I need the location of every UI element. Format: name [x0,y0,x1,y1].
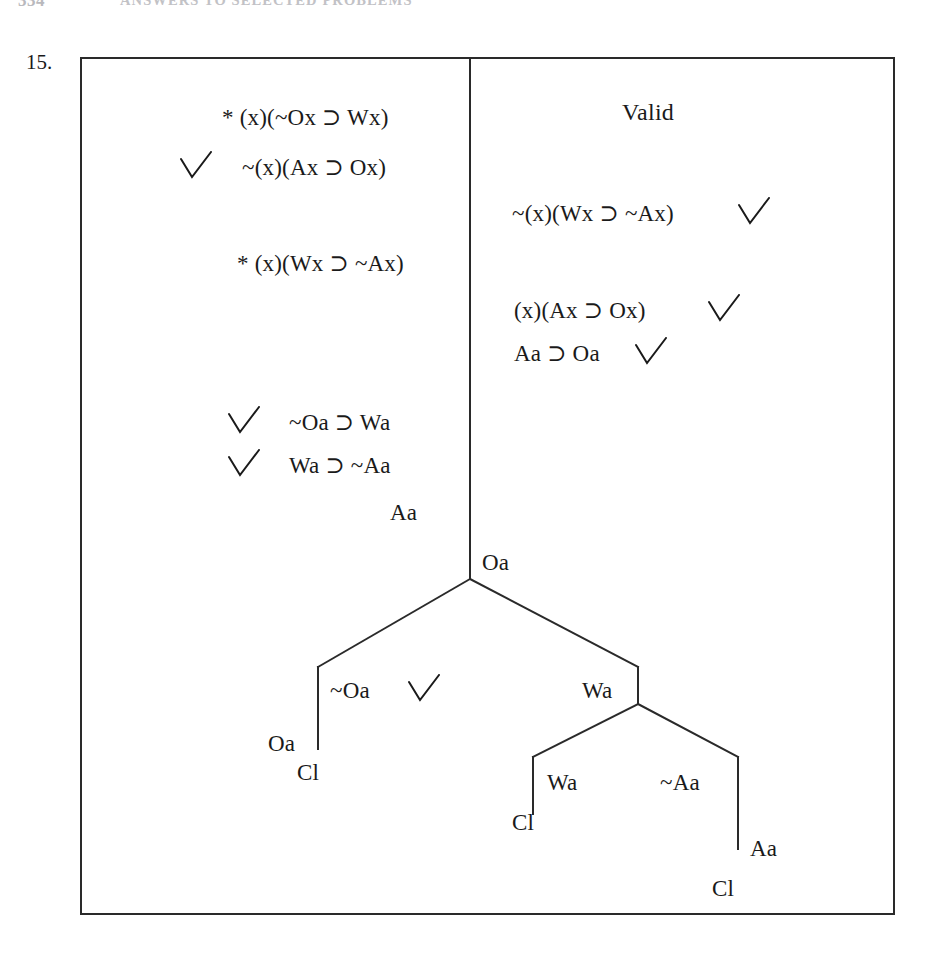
tree-node-r3: Aa ⊃ Oa [514,342,600,365]
fork2-left-arm [533,704,638,757]
tree-node-l1-mark: * [222,105,234,130]
tree-node-b4: Wa [547,771,577,794]
tree-node-r2-formula: (x)(Ax ⊃ Ox) [514,298,646,323]
tree-node-trunk-tail-formula: Oa [482,550,509,575]
tree-branch-lines [82,59,897,917]
closure-marker-left-branch: Cl [297,761,319,784]
truth-tree-box: * (x)(~Ox ⊃ Wx) ~(x)(Ax ⊃ Ox) * (x)(Wx ⊃… [80,57,895,915]
tree-node-r2: (x)(Ax ⊃ Ox) [514,299,646,322]
closure-marker-sub-left-branch: Cl [512,811,534,834]
fork1-right-arm [470,579,638,667]
tree-node-b5-formula: ~Aa [660,770,700,795]
problem-number: 15. [26,50,52,75]
tree-node-l4: ~Oa ⊃ Wa [289,411,390,434]
checkmark-icon-l2 [179,151,213,181]
tree-node-l3-mark: * [237,251,249,276]
tree-node-l6-formula: Aa [390,500,417,525]
tree-node-l2-formula: ~(x)(Ax ⊃ Ox) [242,155,386,180]
tree-node-b3-formula: Wa [582,678,612,703]
tree-node-r1-formula: ~(x)(Wx ⊃ ~Ax) [512,201,674,226]
page-header: 334 ANSWERS TO SELECTED PROBLEMS [0,0,930,12]
checkmark-icon-r3 [634,337,668,367]
validity-label: Valid [622,99,674,126]
fork2-right-arm [638,704,738,757]
tree-node-l1: * (x)(~Ox ⊃ Wx) [222,106,389,129]
page-folio: 334 [18,0,45,11]
tree-node-l5-formula: Wa ⊃ ~Aa [289,453,391,478]
tree-node-l6: Aa [390,501,417,524]
tree-node-b6: Aa [750,837,777,860]
tree-node-b4-formula: Wa [547,770,577,795]
tree-node-l2: ~(x)(Ax ⊃ Ox) [242,156,386,179]
checkmark-icon-r1 [737,197,771,227]
checkmark-icon-r2 [707,294,741,324]
checkmark-icon-l4 [227,406,261,436]
tree-node-l5: Wa ⊃ ~Aa [289,454,391,477]
tree-node-l1-formula: (x)(~Ox ⊃ Wx) [240,105,389,130]
tree-node-trunk-tail: Oa [482,551,509,574]
tree-node-r1: ~(x)(Wx ⊃ ~Ax) [512,202,674,225]
tree-node-b2: Oa [268,732,295,755]
tree-node-l3: * (x)(Wx ⊃ ~Ax) [237,252,404,275]
tree-node-b5: ~Aa [660,771,700,794]
checkmark-icon-l5 [227,449,261,479]
fork1-left-arm [318,579,470,667]
tree-node-b1-formula: ~Oa [330,678,370,703]
checkmark-icon-b1 [407,674,441,704]
tree-node-r3-formula: Aa ⊃ Oa [514,341,600,366]
running-head-text: ANSWERS TO SELECTED PROBLEMS [120,0,413,9]
tree-node-b3: Wa [582,679,612,702]
tree-node-l3-formula: (x)(Wx ⊃ ~Ax) [255,251,404,276]
tree-node-b6-formula: Aa [750,836,777,861]
tree-node-b2-formula: Oa [268,731,295,756]
tree-node-b1: ~Oa [330,679,370,702]
closure-marker-sub-right-branch: Cl [712,877,734,900]
tree-node-l4-formula: ~Oa ⊃ Wa [289,410,390,435]
